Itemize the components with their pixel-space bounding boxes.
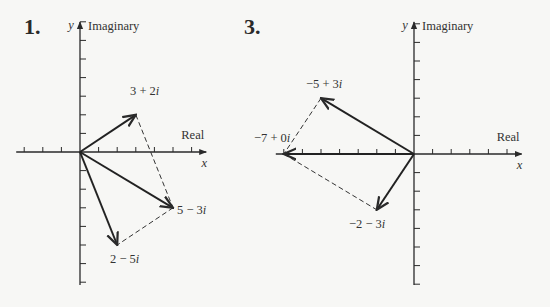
- dashed-parallelogram-edge: [284, 98, 321, 154]
- vector-arrow: [80, 152, 117, 245]
- dashed-parallelogram-edge: [284, 154, 377, 210]
- vector-arrow: [80, 115, 136, 152]
- vector-label: 3 + 2i: [130, 84, 160, 98]
- vector-label: −5 + 3i: [306, 77, 343, 91]
- y-axis-label: Imaginary: [422, 19, 474, 33]
- x-axis-var: x: [200, 156, 207, 170]
- y-axis-var: y: [66, 18, 74, 32]
- y-axis-label: Imaginary: [88, 19, 140, 33]
- vector-arrow: [80, 152, 173, 208]
- figure-3: yImaginaryRealx−5 + 3i−7 + 0i−2 − 3i: [254, 18, 523, 285]
- x-axis-var: x: [516, 158, 523, 172]
- vector-label: 2 − 5i: [110, 252, 140, 266]
- complex-plane-diagrams: yImaginaryRealx3 + 2i5 − 3i2 − 5iyImagin…: [0, 0, 550, 307]
- vector-label: −7 + 0i: [254, 131, 291, 145]
- x-axis-label: Real: [497, 130, 520, 144]
- dashed-parallelogram-edge: [117, 208, 173, 245]
- vector-arrow: [377, 154, 414, 210]
- vector-arrow: [321, 98, 414, 154]
- figure-1: yImaginaryRealx3 + 2i5 − 3i2 − 5i: [16, 18, 207, 285]
- vector-label: 5 − 3i: [177, 203, 207, 217]
- x-axis-label: Real: [181, 128, 204, 142]
- dashed-parallelogram-edge: [136, 115, 173, 208]
- y-axis-var: y: [400, 18, 408, 32]
- vector-label: −2 − 3i: [349, 217, 386, 231]
